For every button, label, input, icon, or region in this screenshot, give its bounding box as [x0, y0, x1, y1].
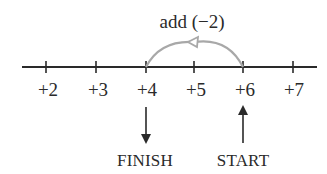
tick-label: +2 — [38, 80, 58, 99]
tick-label: +5 — [186, 80, 206, 99]
tick-label: +7 — [284, 80, 304, 99]
tick-label: +6 — [235, 80, 255, 99]
finish-label: FINISH — [117, 152, 173, 169]
tick-label: +3 — [88, 80, 108, 99]
arc-arrowhead-icon — [188, 37, 198, 47]
up-arrow-icon — [238, 105, 248, 115]
down-arrow-icon — [141, 134, 151, 144]
start-label: START — [217, 152, 269, 169]
operation-label: add (−2) — [159, 12, 224, 31]
tick-label: +4 — [137, 80, 157, 99]
